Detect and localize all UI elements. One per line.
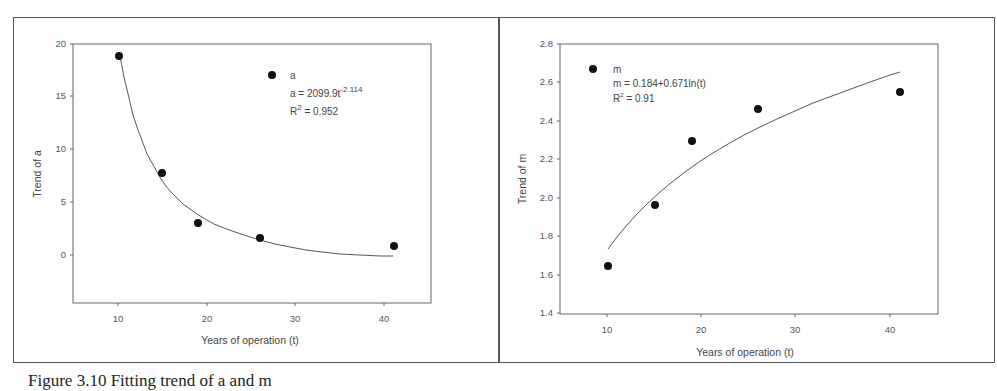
data-points-a	[115, 52, 398, 250]
x-axis-m: 10 20 30 40	[602, 314, 896, 335]
x-tick-label: 10	[113, 313, 124, 324]
legend-label-a: a	[290, 70, 296, 81]
y-tick-label: 5	[61, 196, 66, 207]
y-tick-label: 15	[55, 90, 66, 101]
legend-label-m: m	[613, 64, 621, 75]
x-axis-label-a: Years of operation (t)	[201, 334, 299, 346]
equation-a: a = 2099.9t-2.114	[290, 85, 363, 99]
x-tick-label: 30	[790, 324, 801, 335]
legend-m: m m = 0.184+0.671ln(t) R2 = 0.91	[589, 64, 706, 104]
y-tick-label: 2.0	[540, 192, 553, 203]
r-squared-m: R2 = 0.91	[613, 92, 655, 104]
y-tick-label: 10	[55, 143, 66, 154]
x-tick-label: 20	[202, 313, 213, 324]
y-tick-label: 2.6	[540, 76, 553, 87]
y-axis-label-m: Trend of m	[516, 154, 528, 205]
y-tick-label: 2.8	[540, 38, 553, 49]
x-axis-label-m: Years of operation (t)	[696, 346, 794, 358]
figure-caption: Figure 3.10 Fitting trend of a and m	[28, 371, 272, 391]
y-axis-m: 2.8 2.6 2.4 2.2 2.0 1.8 1.6 1.4	[540, 38, 560, 318]
y-tick-label: 1.4	[540, 307, 553, 318]
r-squared-a: R2 = 0.952	[290, 103, 339, 117]
x-tick-label: 40	[379, 313, 390, 324]
x-tick-label: 30	[290, 313, 301, 324]
y-tick-label: 2.4	[540, 115, 553, 126]
data-points-m	[604, 88, 904, 270]
plot-area-a	[73, 44, 431, 303]
x-tick-label: 20	[696, 324, 707, 335]
y-tick-label: 20	[55, 38, 66, 49]
y-tick-label: 1.6	[540, 269, 553, 280]
y-axis-a: 20 15 10 5 0	[55, 38, 73, 260]
chart-a: 20 15 10 5 0 Trend of a 10 20 30 40 Year…	[31, 38, 431, 346]
y-tick-label: 2.2	[540, 153, 553, 164]
equation-m: m = 0.184+0.671ln(t)	[613, 78, 706, 89]
x-tick-label: 10	[602, 324, 613, 335]
legend-marker-a	[268, 71, 276, 79]
y-tick-label: 0	[61, 249, 66, 260]
x-tick-label: 40	[885, 324, 896, 335]
y-axis-label-a: Trend of a	[31, 150, 43, 198]
chart-m: 2.8 2.6 2.4 2.2 2.0 1.8 1.6 1.4 Trend of…	[516, 38, 938, 358]
y-tick-label: 1.8	[540, 230, 553, 241]
legend-marker-m	[589, 65, 597, 73]
x-axis-a: 10 20 30 40	[113, 303, 390, 324]
legend-a: a a = 2099.9t-2.114 R2 = 0.952	[268, 70, 363, 117]
